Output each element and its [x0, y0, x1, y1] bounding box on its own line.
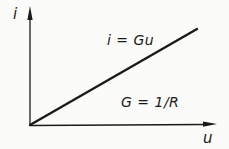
plot-canvas [0, 0, 229, 149]
conductance-annotation: G = 1/R [121, 95, 179, 109]
y-axis-label: i [13, 7, 18, 22]
conductance-characteristic-figure: i u i = Gu G = 1/R [0, 0, 229, 149]
x-axis-label: u [203, 131, 213, 146]
x-axis-line [30, 125, 206, 126]
line-equation-annotation: i = Gu [107, 33, 154, 47]
x-axis-arrowhead-icon [203, 122, 217, 127]
y-axis-arrowhead-icon [27, 6, 32, 20]
